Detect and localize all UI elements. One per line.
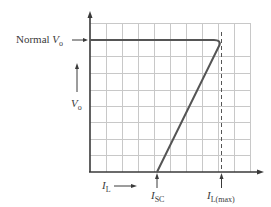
il-axis-label: IL [102,180,111,194]
vo-axis-label: Vo [71,98,82,112]
normal-vo-label: Normal Vo [16,34,63,48]
isc-up-arrow-icon [155,173,159,179]
normal-text: Normal [16,33,52,45]
ilmax-up-arrow-icon [220,173,224,179]
vo-subscript: o [59,39,63,48]
vo-subscript: o [78,103,82,112]
il-right-arrow-icon [131,184,137,188]
vo-symbol: V [71,97,78,109]
y-axis-arrow-icon [88,11,93,18]
ilmax-label: IL(max) [207,190,235,204]
normal-vo-arrow-icon [83,38,88,42]
ilmax-subscript: L(max) [211,195,235,204]
vo-up-arrow-icon [75,63,79,69]
characteristic-plot [0,0,271,207]
il-subscript: L [106,185,111,194]
grid [90,23,251,172]
x-axis-arrow-icon [257,170,264,175]
isc-subscript: SC [155,195,165,204]
isc-label: ISC [151,190,164,204]
